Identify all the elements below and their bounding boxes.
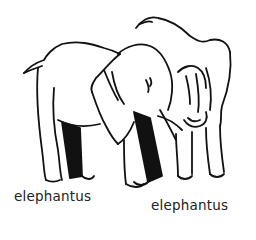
left-elephant-label: elephantus: [14, 188, 91, 204]
right-elephant-label: elephantus: [151, 197, 228, 213]
middle-elephant: [118, 44, 182, 187]
left-elephant: [24, 42, 134, 181]
